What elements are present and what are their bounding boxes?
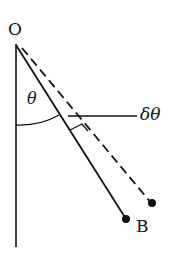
bob-b xyxy=(122,215,130,223)
label-delta-theta: δθ xyxy=(140,106,160,123)
label-theta: θ xyxy=(27,91,37,107)
label-pivot-o: O xyxy=(8,21,22,38)
label-bob-b: B xyxy=(136,218,149,235)
solid-rod xyxy=(16,45,126,219)
pendulum-diagram: O θ δθ B xyxy=(0,0,174,262)
bob-displaced xyxy=(148,199,156,207)
dashed-rod xyxy=(22,48,152,204)
theta-arc xyxy=(16,115,59,125)
